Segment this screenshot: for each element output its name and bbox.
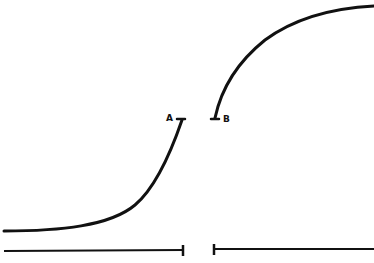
lower-curve — [4, 120, 182, 231]
label-point-b: B — [223, 114, 230, 124]
baseline-left — [4, 250, 183, 251]
label-point-a: A — [166, 113, 173, 123]
diagram-canvas — [0, 0, 374, 263]
upper-curve — [215, 6, 374, 118]
